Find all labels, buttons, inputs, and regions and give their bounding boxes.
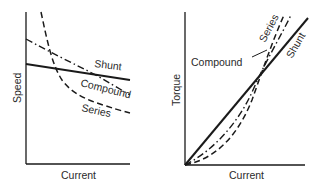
speed-shunt-label: Shunt: [94, 57, 123, 72]
motor-characteristics-diagram: Shunt Compound Series Current Speed Comp…: [0, 0, 313, 188]
speed-series-label: Series: [81, 101, 113, 119]
torque-shunt-label: Shunt: [283, 30, 307, 60]
speed-x-axis-label: Current: [61, 169, 96, 181]
torque-current-chart: Compound Series Shunt Current Torque: [170, 12, 308, 181]
torque-series-label: Series: [256, 12, 281, 44]
torque-compound-label: Compound: [191, 56, 243, 68]
speed-current-chart: Shunt Compound Series Current Speed: [11, 12, 132, 181]
torque-compound-leader: [252, 50, 267, 57]
torque-y-axis-label: Torque: [170, 74, 182, 106]
torque-x-axis-label: Current: [229, 169, 264, 181]
torque-shunt-curve: [185, 18, 308, 165]
speed-y-axis-label: Speed: [11, 72, 23, 103]
